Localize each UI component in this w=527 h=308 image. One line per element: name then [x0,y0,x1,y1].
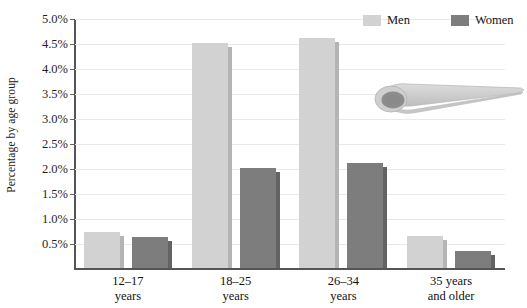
y-axis-tick [70,144,74,145]
bar-face [84,232,120,268]
legend: Men Women [363,13,514,28]
y-axis-tick [70,244,74,245]
gridline [75,194,505,195]
y-axis-tick [70,19,74,20]
y-axis-tick [70,169,74,170]
y-axis-tick-label: 0.5% [22,237,68,252]
gridline [75,69,505,70]
y-axis-tick [70,44,74,45]
legend-swatch-men-icon [363,15,381,26]
y-axis-tick-label: 1.5% [22,187,68,202]
y-axis-tick [70,194,74,195]
category-label-line1: 35 years [430,274,472,288]
y-axis-title: Percentage by age group [0,0,22,270]
x-axis-category-label: 12–17years [68,274,188,304]
y-axis-tick [70,69,74,70]
y-axis-title-label: Percentage by age group [5,77,17,193]
bar-face [192,43,228,268]
y-axis-tick [70,94,74,95]
bar-men-3 [299,38,339,268]
gridline [75,144,505,145]
bar-side-shadow [168,241,172,268]
bar-side-shadow [383,167,387,268]
category-label-line1: 18–25 [220,274,251,288]
bar-side-shadow [443,240,447,269]
bar-chart: Percentage by age group 0.5%1.0%1.5%2.0%… [0,0,527,308]
category-label-line2: years [176,289,296,304]
y-axis-tick-label: 4.0% [22,62,68,77]
bar-face [299,38,335,268]
bar-face [455,251,491,269]
y-axis-tick-label: 3.5% [22,87,68,102]
bar-women-1 [132,237,172,268]
bar-side-shadow [120,236,124,268]
y-axis-tick-label: 2.5% [22,137,68,152]
bar-men-1 [84,232,124,268]
legend-label-men: Men [387,13,410,28]
category-label-line1: 12–17 [112,274,143,288]
y-axis-tick-label: 5.0% [22,12,68,27]
bar-face [407,236,443,269]
x-axis-line [74,268,505,270]
category-label-line2: years [283,289,403,304]
bar-face [132,237,168,268]
y-axis-tick [70,119,74,120]
y-axis-tick-label: 1.0% [22,212,68,227]
cigarette-graphic-icon [371,80,527,124]
x-axis-category-label: 26–34years [283,274,403,304]
gridline [75,219,505,220]
bar-men-2 [192,43,232,268]
gridline [75,169,505,170]
category-label-line2: and older [391,289,511,304]
bar-women-3 [347,163,387,268]
y-axis-tick-label: 3.0% [22,112,68,127]
bar-side-shadow [276,172,280,268]
bar-side-shadow [491,255,495,269]
y-axis-tick [70,219,74,220]
y-axis-tick-label: 2.0% [22,162,68,177]
x-axis-category-label: 35 yearsand older [391,274,511,304]
bar-women-4 [455,251,495,269]
bar-face [347,163,383,268]
gridline [75,44,505,45]
bar-side-shadow [335,42,339,268]
bar-face [240,168,276,268]
category-label-line1: 26–34 [328,274,359,288]
x-axis-category-label: 18–25years [176,274,296,304]
legend-swatch-women-icon [451,15,469,26]
legend-label-women: Women [475,13,514,28]
bar-women-2 [240,168,280,268]
bar-side-shadow [228,47,232,268]
legend-entry-men: Men [363,13,410,28]
plot-area [74,19,505,269]
legend-entry-women: Women [451,13,514,28]
y-axis-tick-label: 4.5% [22,37,68,52]
bar-men-4 [407,236,447,269]
category-label-line2: years [68,289,188,304]
